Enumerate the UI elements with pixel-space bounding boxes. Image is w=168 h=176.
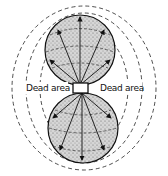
radiation-pattern-diagram: Dead area Dead area [0, 0, 168, 176]
dead-area-label-right: Dead area [100, 83, 144, 93]
upper-lobe [45, 15, 115, 85]
dead-area-label-left: Dead area [26, 83, 70, 93]
lower-lobe [48, 93, 118, 163]
antenna-element [73, 83, 88, 93]
